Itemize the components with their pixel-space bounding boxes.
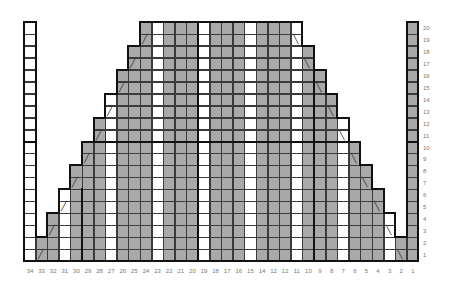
stitch-cell <box>152 177 164 190</box>
stitch-cell <box>314 177 326 190</box>
stitch-cell <box>291 118 303 131</box>
stitch-cell <box>140 225 152 238</box>
stitch-cell <box>256 58 268 71</box>
stitch-cell <box>279 22 291 35</box>
stitch-cell <box>233 153 245 166</box>
stitch-cell <box>198 22 210 35</box>
right-decrease-icon: ╲ <box>351 154 356 163</box>
stitch-cell <box>291 225 303 238</box>
stitch-cell <box>117 225 129 238</box>
stitch-cell <box>82 213 94 226</box>
stitch-cell <box>163 22 175 35</box>
stitch-cell <box>117 70 129 83</box>
stitch-cell <box>198 118 210 131</box>
stitch-cell <box>360 189 372 202</box>
stitch-cell <box>117 237 129 250</box>
stitch-cell <box>210 118 222 131</box>
stitch-cell <box>268 94 280 107</box>
stitch-cell <box>291 177 303 190</box>
stitch-cell <box>163 201 175 214</box>
stitch-cell <box>117 94 129 107</box>
stitch-cell <box>105 165 117 178</box>
stitch-cell <box>210 94 222 107</box>
row-number-label: 4 <box>423 216 426 222</box>
stitch-cell <box>337 189 349 202</box>
stitch-cell <box>140 142 152 155</box>
stitch-cell <box>198 142 210 155</box>
stitch-cell <box>163 82 175 95</box>
stitch-cell <box>279 225 291 238</box>
stitch-cell <box>268 142 280 155</box>
stitch-cell <box>233 201 245 214</box>
stitch-cell <box>221 106 233 119</box>
stitch-cell <box>337 237 349 250</box>
stitch-cell <box>337 177 349 190</box>
stitch-cell <box>152 118 164 131</box>
stitch-cell <box>140 237 152 250</box>
stitch-cell <box>175 153 187 166</box>
outline-line <box>23 141 37 143</box>
column-number-label: 1 <box>407 268 419 274</box>
stitch-cell <box>244 106 256 119</box>
stitch-cell <box>244 237 256 250</box>
stitch-cell <box>105 213 117 226</box>
stitch-cell <box>152 153 164 166</box>
stitch-cell <box>244 225 256 238</box>
stitch-cell <box>163 70 175 83</box>
stitch-cell <box>233 58 245 71</box>
stitch-cell <box>163 237 175 250</box>
stitch-cell <box>210 58 222 71</box>
stitch-cell <box>117 189 129 202</box>
stitch-cell <box>175 106 187 119</box>
stitch-cell <box>244 213 256 226</box>
outline-line <box>104 93 106 118</box>
stitch-cell <box>128 189 140 202</box>
stitch-cell <box>140 22 152 35</box>
stitch-cell <box>221 70 233 83</box>
stitch-cell <box>198 94 210 107</box>
stitch-cell <box>221 153 233 166</box>
stitch-cell <box>152 142 164 155</box>
stitch-cell <box>244 189 256 202</box>
stitch-cell <box>233 34 245 47</box>
stitch-cell <box>221 177 233 190</box>
column-number-label: 24 <box>140 268 152 274</box>
stitch-cell <box>291 106 303 119</box>
column-number-label: 32 <box>47 268 59 274</box>
stitch-cell <box>163 225 175 238</box>
stitch-cell <box>279 46 291 59</box>
stitch-cell <box>82 201 94 214</box>
stitch-cell <box>349 237 361 250</box>
stitch-cell <box>82 189 94 202</box>
stitch-cell <box>221 34 233 47</box>
stitch-cell <box>279 213 291 226</box>
stitch-cell <box>175 46 187 59</box>
stitch-cell <box>233 237 245 250</box>
stitch-cell <box>268 22 280 35</box>
stitch-cell <box>163 58 175 71</box>
outline-line <box>336 141 350 143</box>
stitch-cell <box>314 237 326 250</box>
stitch-cell <box>163 106 175 119</box>
stitch-cell <box>233 225 245 238</box>
right-decrease-icon: ╲ <box>328 107 333 116</box>
stitch-cell <box>117 165 129 178</box>
stitch-cell <box>94 118 106 131</box>
stitch-cell <box>128 118 140 131</box>
stitch-cell <box>221 225 233 238</box>
stitch-cell <box>140 46 152 59</box>
stitch-cell <box>326 201 338 214</box>
stitch-cell <box>94 165 106 178</box>
stitch-cell <box>152 58 164 71</box>
stitch-cell <box>82 225 94 238</box>
stitch-cell <box>163 177 175 190</box>
stitch-cell <box>326 189 338 202</box>
stitch-cell <box>314 142 326 155</box>
stitch-cell <box>268 34 280 47</box>
stitch-cell <box>221 165 233 178</box>
stitch-cell <box>152 70 164 83</box>
stitch-cell <box>268 201 280 214</box>
column-number-label: 25 <box>128 268 140 274</box>
row-number-label: 18 <box>423 49 430 55</box>
stitch-cell <box>291 165 303 178</box>
